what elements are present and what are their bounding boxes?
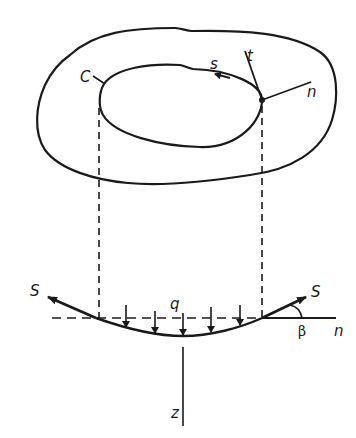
section-view: n S S β q z	[30, 282, 344, 426]
beta-angle-arc	[290, 305, 302, 318]
tangent-s-label: s	[210, 55, 218, 73]
t-label: t	[247, 47, 254, 65]
contour-c-label: C	[80, 68, 91, 86]
tension-s-right-arrow	[262, 297, 306, 318]
n-axis-label: n	[334, 322, 344, 340]
tension-s-left-label: S	[30, 282, 40, 300]
top-view: C s t n	[37, 28, 336, 184]
n-label-top: n	[307, 83, 317, 101]
tension-s-right-label: S	[311, 283, 321, 301]
membrane-sag-curve	[96, 318, 262, 336]
z-axis-label: z	[170, 404, 180, 422]
outer-region-boundary	[37, 28, 336, 184]
n-vector-line	[262, 82, 311, 100]
beta-label: β	[298, 323, 306, 339]
tension-s-left-arrow	[48, 297, 96, 318]
membrane-diagram: C s t n n S S β	[0, 0, 356, 438]
contour-c	[100, 65, 262, 147]
load-q-label: q	[170, 295, 180, 313]
contour-c-leader	[93, 76, 105, 84]
